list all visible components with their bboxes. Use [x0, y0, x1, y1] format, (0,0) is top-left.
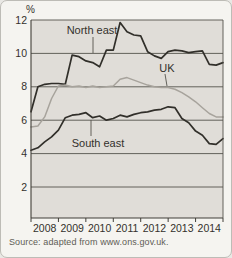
plot-area	[31, 20, 223, 218]
x-tick-label-2009: 2009	[60, 222, 84, 234]
unemployment-line-chart: 24681012 2008200920102011201220132014 % …	[1, 1, 232, 235]
y-tick-label-4: 4	[21, 147, 27, 159]
y-tick-label-10: 10	[15, 47, 27, 59]
x-tick-label-2014: 2014	[198, 222, 222, 234]
x-tick-label-2010: 2010	[88, 222, 112, 234]
x-tick-label-2012: 2012	[143, 222, 167, 234]
x-tick-label-2011: 2011	[116, 222, 139, 234]
series-label-uk: UK	[159, 62, 175, 74]
y-axis-labels: 24681012	[15, 14, 27, 193]
series-label-north-east: North east	[67, 24, 118, 36]
percent-unit-label: %	[26, 4, 35, 15]
y-tick-label-8: 8	[21, 80, 27, 92]
source-caption: Source: adapted from www.ons.gov.uk.	[9, 237, 227, 247]
y-tick-label-12: 12	[15, 14, 27, 26]
series-label-south-east: South east	[72, 137, 125, 149]
y-tick-label-6: 6	[21, 114, 27, 126]
x-tick-label-2013: 2013	[170, 222, 194, 234]
figure-card: 24681012 2008200920102011201220132014 % …	[0, 0, 232, 258]
y-tick-label-2: 2	[21, 181, 27, 193]
x-tick-label-2008: 2008	[33, 222, 57, 234]
x-axis-labels: 2008200920102011201220132014	[33, 222, 221, 234]
